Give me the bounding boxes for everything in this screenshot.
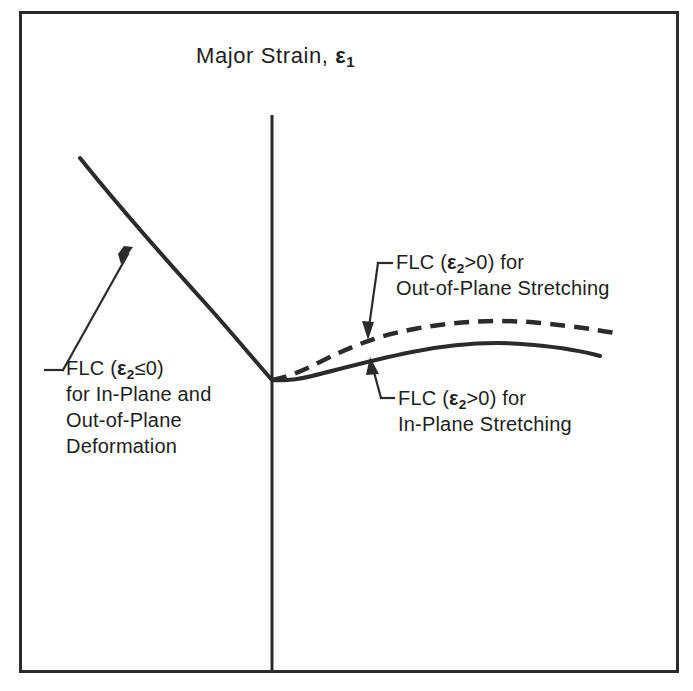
figure-title-subscript: 1 [346,53,355,70]
label-lower-right-line-2: In-Plane Stretching [398,411,572,437]
label-left-line-4: Deformation [66,433,212,459]
figure-title: Major Strain, ε1 [196,42,355,71]
figure-canvas [0,0,693,691]
label-lower-right-suffix: >0) for [466,387,526,409]
label-upper-right-suffix: >0) for [464,251,524,273]
label-left-line-3: Out-of-Plane [66,407,212,433]
epsilon-symbol: ε [447,251,457,273]
label-upper-right-line-1: FLC (ε2>0) for [396,249,610,275]
flc-in-plane-stretching-label: FLC (ε2>0) for In-Plane Stretching [398,385,572,437]
figure-border-frame [21,13,678,672]
label-upper-right-line-2: Out-of-Plane Stretching [396,275,610,301]
label-left-line-2: for In-Plane and [66,381,212,407]
flc-out-of-plane-stretching-label: FLC (ε2>0) for Out-of-Plane Stretching [396,249,610,301]
label-left-line-1: FLC (ε2≤0) [66,355,212,381]
epsilon-symbol: ε [449,387,459,409]
epsilon-symbol: ε [117,357,127,379]
forming-limit-diagram-figure: Major Strain, ε1 FLC (ε2≤0) for In-Plane… [0,0,693,691]
figure-title-main: Major Strain, [196,43,335,68]
label-left-subscript: 2 [127,367,135,382]
flc-negative-minor-strain-label: FLC (ε2≤0) for In-Plane and Out-of-Plane… [66,355,212,459]
label-upper-right-prefix: FLC ( [396,251,447,273]
label-lower-right-subscript: 2 [459,397,467,412]
label-lower-right-line-1: FLC (ε2>0) for [398,385,572,411]
epsilon-symbol: ε [335,43,346,68]
label-lower-right-prefix: FLC ( [398,387,449,409]
label-left-prefix: FLC ( [66,357,117,379]
label-left-suffix: ≤0) [134,357,163,379]
label-upper-right-subscript: 2 [457,261,465,276]
